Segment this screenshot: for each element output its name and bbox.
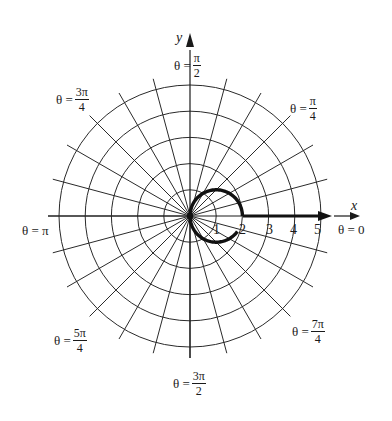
grid-ray-75deg [190, 79, 227, 216]
angle-label-5pi-over-4: θ = 5π4 [54, 327, 87, 354]
grid-ray-15deg [190, 179, 327, 216]
origin-point [187, 213, 193, 219]
x-tick-5: 5 [314, 222, 321, 238]
grid-ray-345deg [190, 216, 327, 253]
grid-ray-105deg [153, 79, 190, 216]
angle-label-0: θ = 0 [338, 223, 365, 236]
x-tick-2: 2 [239, 222, 246, 238]
angle-label-3pi-over-4: θ = 3π4 [56, 86, 89, 113]
angle-label-3pi-over-2: θ = 3π2 [173, 370, 206, 397]
x-tick-4: 4 [290, 222, 297, 238]
y-axis-label: y [176, 30, 182, 46]
angle-label-pi-over-4: θ = π4 [290, 95, 317, 122]
x-tick-3: 3 [266, 222, 273, 238]
grid-ray-195deg [53, 216, 190, 253]
grid-ray-255deg [153, 216, 190, 353]
angle-label-pi-over-2: θ = π2 [174, 52, 201, 79]
x-axis-label: x [351, 198, 357, 214]
angle-label-7pi-over-4: θ = 7π4 [292, 318, 325, 345]
grid-ray-165deg [53, 179, 190, 216]
y-axis-arrow-icon [186, 33, 194, 47]
angle-label-pi: θ = π [22, 224, 49, 237]
grid-ray-285deg [190, 216, 227, 353]
grid-radial-lines [48, 79, 327, 358]
polar-axis-arrow-icon [318, 211, 332, 221]
x-tick-1: 1 [213, 222, 220, 238]
